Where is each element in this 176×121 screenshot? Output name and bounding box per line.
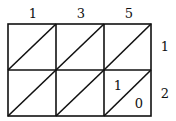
top-digit: 3 [77, 6, 85, 21]
top-digit: 5 [125, 6, 133, 21]
lattice-grid [8, 24, 151, 116]
right-digit: 2 [161, 86, 169, 101]
cell-diagonal [104, 24, 151, 70]
cell-diagonal [56, 70, 104, 116]
right-digit: 1 [161, 39, 169, 54]
cell-diagonal [8, 24, 56, 70]
cell-ones-digit: 0 [135, 96, 143, 111]
cell-tens-digit: 1 [114, 78, 122, 93]
cell-diagonal [104, 70, 151, 116]
lattice-diagram: 1 3 5 1 2 1 0 [0, 0, 176, 121]
cell-diagonal [56, 24, 104, 70]
top-digit: 1 [29, 6, 37, 21]
cell-diagonal [8, 70, 56, 116]
